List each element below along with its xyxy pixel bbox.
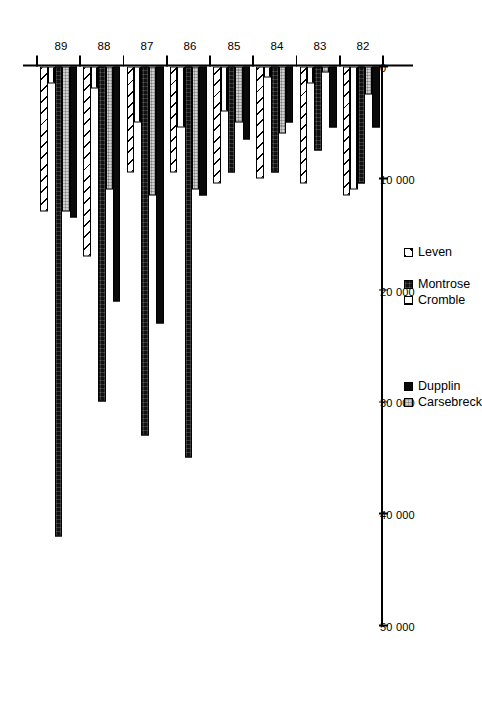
category-tick xyxy=(295,55,297,66)
category-tick xyxy=(165,55,167,66)
category-label: 84 xyxy=(270,40,283,52)
bar-carsebreck-88 xyxy=(105,66,112,189)
rotated-plot-area: 010 00020 00030 00040 00050 000 82838485… xyxy=(23,30,443,685)
bar-dupplin-87 xyxy=(156,66,163,323)
category-tick xyxy=(382,55,384,66)
legend-group-leven: Leven xyxy=(404,244,452,260)
legend-swatch-montrose-icon xyxy=(404,280,413,289)
bar-leven-85 xyxy=(213,66,220,183)
category-tick xyxy=(122,55,124,66)
bar-dupplin-84 xyxy=(285,66,292,122)
value-tick-label: 10 000 xyxy=(380,173,415,185)
value-tick-label: 40 000 xyxy=(380,508,415,520)
bar-montrose-88 xyxy=(98,66,105,401)
bar-montrose-82 xyxy=(357,66,364,183)
bar-carsebreck-86 xyxy=(192,66,199,189)
legend-group-dupplin-carsebreck: DupplinCarsebreck xyxy=(404,378,482,410)
legend-label: Dupplin xyxy=(418,378,460,394)
bar-leven-83 xyxy=(299,66,306,183)
bar-carsebreck-87 xyxy=(148,66,155,195)
legend-item-carsebreck: Carsebreck xyxy=(404,394,482,410)
category-label: 89 xyxy=(54,40,67,52)
legend-label: Montrose xyxy=(418,276,470,292)
bar-carsebreck-89 xyxy=(62,66,69,211)
bar-carsebreck-82 xyxy=(365,66,372,94)
legend-label: Carsebreck xyxy=(418,394,482,410)
category-label: 83 xyxy=(313,40,326,52)
bar-cromble-89 xyxy=(47,66,54,83)
bar-carsebreck-84 xyxy=(278,66,285,133)
category-tick xyxy=(338,55,340,66)
bar-leven-82 xyxy=(342,66,349,195)
legend-item-montrose: Montrose xyxy=(404,276,470,292)
bar-montrose-83 xyxy=(314,66,321,150)
bar-cromble-87 xyxy=(134,66,141,122)
bar-montrose-86 xyxy=(184,66,191,457)
legend-group-montrose-cromble: MontroseCromble xyxy=(404,276,470,308)
bar-montrose-87 xyxy=(141,66,148,435)
bar-cromble-86 xyxy=(177,66,184,127)
bar-dupplin-89 xyxy=(69,66,76,217)
bar-leven-88 xyxy=(83,66,90,256)
category-label: 86 xyxy=(183,40,196,52)
legend-swatch-dupplin-icon xyxy=(404,382,413,391)
bar-dupplin-83 xyxy=(329,66,336,127)
category-tick xyxy=(209,55,211,66)
bar-dupplin-86 xyxy=(199,66,206,195)
bar-montrose-89 xyxy=(54,66,61,536)
category-tick xyxy=(252,55,254,66)
legend-swatch-leven-icon xyxy=(404,248,413,257)
category-tick xyxy=(79,55,81,66)
value-axis-line xyxy=(381,65,383,625)
legend-item-leven: Leven xyxy=(404,244,452,260)
category-label: 88 xyxy=(97,40,110,52)
bar-leven-86 xyxy=(169,66,176,172)
bar-leven-84 xyxy=(256,66,263,178)
category-label: 82 xyxy=(356,40,369,52)
bar-carsebreck-83 xyxy=(321,66,328,72)
legend-swatch-carsebreck-icon xyxy=(404,398,413,407)
bar-cromble-82 xyxy=(350,66,357,189)
legend-item-dupplin: Dupplin xyxy=(404,378,482,394)
category-label: 85 xyxy=(227,40,240,52)
bar-dupplin-88 xyxy=(112,66,119,301)
bar-cromble-88 xyxy=(90,66,97,88)
bar-dupplin-82 xyxy=(372,66,379,127)
legend-item-cromble: Cromble xyxy=(404,292,470,308)
bar-leven-87 xyxy=(126,66,133,172)
bar-montrose-84 xyxy=(271,66,278,172)
bar-carsebreck-85 xyxy=(235,66,242,122)
value-tick-label: 50 000 xyxy=(380,620,415,632)
bar-cromble-85 xyxy=(220,66,227,111)
category-label: 87 xyxy=(140,40,153,52)
category-tick xyxy=(36,55,38,66)
bar-cromble-84 xyxy=(263,66,270,77)
legend-label: Leven xyxy=(418,244,452,260)
bar-leven-89 xyxy=(40,66,47,211)
legend-label: Cromble xyxy=(418,292,465,308)
legend-swatch-cromble-icon xyxy=(404,296,413,305)
bar-montrose-85 xyxy=(227,66,234,172)
bar-cromble-83 xyxy=(307,66,314,83)
bar-dupplin-85 xyxy=(242,66,249,139)
